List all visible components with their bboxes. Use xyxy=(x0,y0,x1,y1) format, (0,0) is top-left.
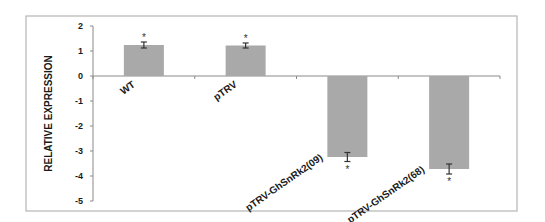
category-labels: WTpTRVpTRV-GhSnRk2(09)pTRV-GhSnRk2(68) xyxy=(118,78,426,222)
category-label: WT xyxy=(118,79,137,97)
y-tick-label: 0 xyxy=(78,71,83,81)
bar-chart: 210-1-2-3-4-5 **** WTpTRVpTRV-GhSnRk2(09… xyxy=(0,0,545,222)
y-axis: 210-1-2-3-4-5 xyxy=(75,21,93,206)
y-tick-label: -2 xyxy=(75,121,83,131)
significance-marker: * xyxy=(447,176,451,187)
bars: **** xyxy=(124,32,469,187)
significance-marker: * xyxy=(244,33,248,44)
category-label: pTRV xyxy=(211,78,239,102)
y-tick-label: -4 xyxy=(75,171,83,181)
bar xyxy=(124,45,164,76)
category-label: pTRV-GhSnRk2(68) xyxy=(345,164,426,222)
y-tick-label: -1 xyxy=(75,96,83,106)
significance-marker: * xyxy=(345,164,349,175)
y-axis-label: RELATIVE EXPRESSION xyxy=(43,55,54,172)
y-tick-label: -3 xyxy=(75,146,83,156)
bar xyxy=(429,76,469,169)
bar xyxy=(327,76,367,157)
y-tick-label: 2 xyxy=(78,21,83,31)
y-tick-label: 1 xyxy=(78,46,83,56)
category-label: pTRV-GhSnRk2(09) xyxy=(243,152,324,213)
significance-marker: * xyxy=(142,32,146,43)
y-tick-label: -5 xyxy=(75,196,83,206)
bar xyxy=(226,46,266,77)
